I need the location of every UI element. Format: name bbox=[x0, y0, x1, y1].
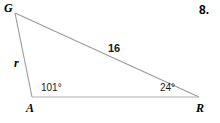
side-length-label-GA: r bbox=[14, 57, 19, 69]
angle-measure-label-A: 101° bbox=[41, 83, 62, 93]
angle-measure-label-R: 24° bbox=[160, 83, 175, 93]
vertex-label-R: R bbox=[196, 102, 204, 114]
vertex-label-A: A bbox=[26, 102, 34, 114]
geometry-figure-canvas: G A R 16 r 101° 24° 8. bbox=[0, 0, 220, 123]
side-GA-line bbox=[15, 13, 32, 97]
vertex-label-G: G bbox=[4, 2, 13, 14]
problem-number: 8. bbox=[199, 4, 209, 16]
side-length-label-GR: 16 bbox=[108, 43, 120, 54]
